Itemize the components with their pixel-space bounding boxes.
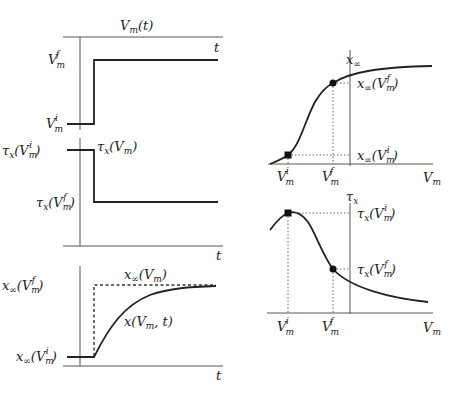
marker-initial-label: τx(Vmi) [357,203,395,223]
xinf-sigmoid-curve [270,66,432,164]
panel-tau-vs-vm: τx τx(Vmi) τx(Vmf) Vmi Vmf Vm [267,189,441,337]
x-axis-label: t [216,368,222,383]
y-axis-label: τx [346,189,358,206]
panel-title: τx(Vm) [97,139,137,156]
trajectory-label: x(Vm, t) [124,314,173,331]
tick-initial: Vmi [277,316,294,337]
voltage-step-curve [67,60,218,124]
circle-marker-final [330,80,337,87]
marker-final-label: x∞(Vmf) [357,73,398,93]
x-axis-label: t [216,248,222,263]
marker-final-label: τx(Vmf) [357,259,396,279]
panel-xinf-vs-vm: x∞ x∞(Vmf) x∞(Vmi) Vmi Vmf Vm [268,50,441,187]
steady-state-label: x∞(Vm) [124,267,167,284]
panel-title: Vm(t) [120,18,153,35]
level-initial-label: x∞(Vmi) [16,346,57,366]
marker-initial-label: x∞(Vmi) [357,145,398,165]
tick-initial: Vmi [277,166,294,187]
level-final-label: τx(Vmf) [36,192,75,212]
y-axis-label: x∞ [346,52,361,69]
x-axis-label: Vm [423,170,441,187]
hh-gating-diagram: Vm(t) t Vmf Vmi t τx(Vm) τx(Vmi) τx(Vmf)… [0,0,456,397]
level-initial-label: Vmi [46,113,63,134]
tau-bell-curve [270,212,428,302]
x-axis-label: t [214,40,220,55]
panel-tau-step: t τx(Vm) τx(Vmi) τx(Vmf) [2,138,223,263]
x-axis-label: Vm [423,320,441,337]
tau-step-curve [67,150,218,202]
level-final-label: Vmf [48,49,65,70]
tick-final: Vmf [322,316,339,337]
square-marker-initial [285,152,292,159]
circle-marker-final [330,266,337,273]
square-marker-initial [285,210,292,217]
panel-gate-relaxation: t x∞(Vm) x(Vm, t) x∞(Vmf) x∞(Vmi) [2,266,223,383]
tick-final: Vmf [322,166,339,187]
panel-voltage-step: Vm(t) t Vmf Vmi [46,18,223,134]
level-final-label: x∞(Vmf) [2,275,43,295]
level-initial-label: τx(Vmi) [2,140,40,160]
